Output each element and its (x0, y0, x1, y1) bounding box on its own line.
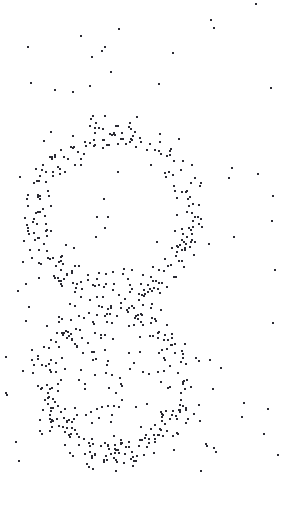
scatter-dot (86, 463, 88, 465)
scatter-dot (178, 260, 180, 262)
scatter-dot (129, 284, 131, 286)
scatter-dot (241, 416, 243, 418)
scatter-dot (117, 125, 119, 127)
scatter-dot (38, 262, 40, 264)
scatter-dot (56, 332, 58, 334)
scatter-dot (128, 325, 130, 327)
scatter-dot (54, 156, 56, 158)
scatter-dot (45, 223, 47, 225)
scatter-dot (113, 405, 115, 407)
scatter-dot (220, 367, 222, 369)
scatter-dot (182, 405, 184, 407)
scatter-dot (182, 353, 184, 355)
scatter-dot (73, 247, 75, 249)
scatter-dot (113, 132, 115, 134)
scatter-dot (184, 247, 186, 249)
scatter-dot (98, 272, 100, 274)
scatter-dot (80, 369, 82, 371)
scatter-dot (37, 355, 39, 357)
scatter-dot (181, 249, 183, 251)
scatter-dot (156, 241, 158, 243)
plot-background (0, 0, 285, 507)
scatter-dot (96, 408, 98, 410)
scatter-dot (32, 221, 34, 223)
scatter-dot (144, 437, 146, 439)
scatter-dot (135, 460, 137, 462)
scatter-dot (117, 143, 119, 145)
scatter-dot (104, 442, 106, 444)
scatter-dot (35, 212, 37, 214)
scatter-dot (174, 352, 176, 354)
scatter-dot (6, 394, 8, 396)
scatter-dot (101, 406, 103, 408)
scatter-dot (60, 269, 62, 271)
scatter-dot (190, 386, 192, 388)
scatter-dot (93, 139, 95, 141)
scatter-dot (134, 317, 136, 319)
scatter-dot (146, 149, 148, 151)
scatter-dot (70, 333, 72, 335)
scatter-dot (62, 263, 64, 265)
scatter-dot (52, 171, 54, 173)
scatter-dot (48, 347, 50, 349)
scatter-dot (175, 415, 177, 417)
scatter-dot (142, 274, 144, 276)
scatter-dot (19, 176, 21, 178)
scatter-dot (33, 232, 35, 234)
scatter-dot (135, 315, 137, 317)
scatter-dot (115, 125, 117, 127)
scatter-dot (272, 322, 274, 324)
scatter-dot (88, 466, 90, 468)
scatter-dot (63, 332, 65, 334)
scatter-dot (191, 239, 193, 241)
scatter-dot (50, 131, 52, 133)
scatter-dot (158, 352, 160, 354)
scatter-dot (98, 305, 100, 307)
scatter-dot (140, 313, 142, 315)
scatter-dot (27, 46, 29, 48)
scatter-dot (176, 197, 178, 199)
scatter-dot (194, 241, 196, 243)
scatter-dot (81, 337, 83, 339)
scatter-dot (159, 133, 161, 135)
scatter-dot (168, 171, 170, 173)
scatter-dot (228, 177, 230, 179)
scatter-dot (106, 144, 108, 146)
scatter-dot (190, 182, 192, 184)
scatter-dot (110, 453, 112, 455)
scatter-dot (115, 459, 117, 461)
scatter-dot (192, 203, 194, 205)
scatter-dot (157, 288, 159, 290)
scatter-dot (150, 322, 152, 324)
scatter-dot (81, 288, 83, 290)
scatter-dot (143, 295, 145, 297)
scatter-dot (104, 349, 106, 351)
scatter-dot (192, 226, 194, 228)
scatter-dot (55, 371, 57, 373)
scatter-dot (186, 236, 188, 238)
scatter-dot (160, 153, 162, 155)
plot-surface (0, 0, 285, 507)
scatter-dot (137, 318, 139, 320)
scatter-dot (95, 236, 97, 238)
scatter-dot (159, 292, 161, 294)
scatter-dot (213, 447, 215, 449)
scatter-dot (186, 379, 188, 381)
scatter-dot (176, 251, 178, 253)
scatter-dot (58, 425, 60, 427)
scatter-dot (154, 318, 156, 320)
scatter-dot (39, 175, 41, 177)
scatter-dot (142, 324, 144, 326)
scatter-dot (106, 364, 108, 366)
scatter-dot (200, 470, 202, 472)
scatter-dot (139, 336, 141, 338)
scatter-dot (31, 257, 33, 259)
scatter-dot (127, 311, 129, 313)
scatter-dot (56, 418, 58, 420)
scatter-dot (92, 359, 94, 361)
scatter-dot (166, 286, 168, 288)
scatter-dot (155, 280, 157, 282)
scatter-dot (61, 357, 63, 359)
scatter-dot (160, 381, 162, 383)
scatter-dot (98, 127, 100, 129)
